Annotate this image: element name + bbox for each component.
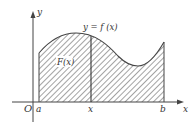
y-axis-arrow-icon [31,11,36,18]
curve-label: y = f (x) [82,22,118,32]
y-axis-label: y [36,7,43,17]
tick-label-a: a [36,104,41,114]
integral-area-diagram: y x O a x b y = f (x) F(x) [0,0,196,131]
hatched-area-region [39,33,164,102]
origin-label: O [24,103,32,114]
x-axis-label: x [183,104,188,114]
tick-label-b: b [160,104,166,114]
tick-label-x: x [88,104,93,114]
area-label: F(x) [56,57,74,67]
